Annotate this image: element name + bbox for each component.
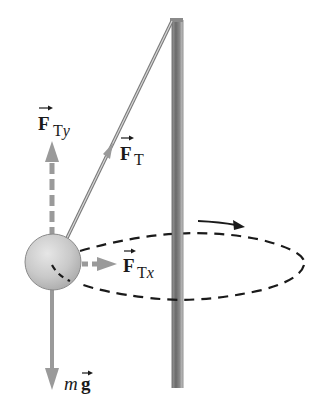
string [66,21,172,240]
circular-path-back [80,233,304,265]
weight-arrow [45,288,59,390]
tension-x-component-arrow [82,257,117,271]
label-tension-x-main: F [123,255,135,276]
tension-y-component-arrow [45,141,59,238]
label-weight-prefix: m [64,373,78,394]
rotation-direction-arrow [198,220,245,230]
ball [25,234,81,290]
label-tension-main: F [120,143,132,164]
pole [170,18,183,388]
label-tension: F T [120,136,144,169]
label-tension-x: F Tx [123,249,154,282]
label-weight: m g [64,371,93,395]
label-tension-sub: T [134,151,144,168]
label-tension-x-sub: Tx [137,264,154,281]
label-tension-y: F Ty [38,106,71,141]
label-weight-main: g [81,373,91,394]
label-tension-y-sub: Ty [53,122,71,140]
conical-pendulum-diagram: F Ty F T F Tx m g [0,0,315,404]
label-tension-y-main: F [38,113,50,134]
